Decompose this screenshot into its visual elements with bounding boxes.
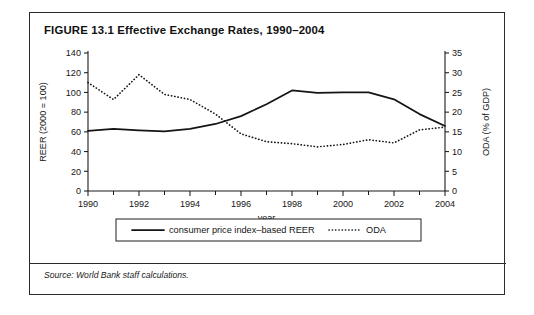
x-axis-tick-label: 2000 (333, 199, 353, 209)
series-line-oda (88, 75, 445, 147)
figure-title: FIGURE 13.1 Effective Exchange Rates, 19… (44, 24, 325, 36)
series-group (88, 75, 445, 147)
x-axis-tick-label: 1994 (180, 199, 200, 209)
legend-label-reer: consumer price index–based REER (169, 225, 315, 235)
left-axis-tick-label: 20 (71, 167, 81, 177)
legend-label-oda: ODA (366, 225, 387, 235)
left-axis-tick-label: 0 (76, 186, 81, 196)
left-axis-tick-label: 120 (66, 68, 81, 78)
right-axis-tick-label: 5 (452, 167, 457, 177)
x-axis-tick-label: 2002 (384, 199, 404, 209)
right-axis-tick-label: 30 (452, 68, 462, 78)
source-note: Source: World Bank staff calculations. (44, 270, 189, 280)
left-axis-tick-label: 60 (71, 127, 81, 137)
right-axis-group: 05101520253035ODA (% of GDP) (445, 48, 491, 196)
x-axis-tick-label: 1992 (129, 199, 149, 209)
x-axis-group: 19901992199419961998200020022004year (78, 191, 455, 223)
x-axis-tick-label: 1990 (78, 199, 98, 209)
left-axis-tick-label: 100 (66, 88, 81, 98)
right-axis-title: ODA (% of GDP) (481, 88, 491, 156)
left-axis-title: REER (2000 = 100) (38, 82, 48, 162)
right-axis-tick-label: 35 (452, 48, 462, 58)
source-divider (30, 263, 506, 264)
chart-plot-area: 020406080100120140REER (2000 = 100) 0510… (30, 43, 506, 248)
right-axis-tick-label: 15 (452, 127, 462, 137)
left-axis-tick-label: 140 (66, 48, 81, 58)
exchange-rate-line-chart: 020406080100120140REER (2000 = 100) 0510… (30, 43, 506, 248)
right-axis-tick-label: 20 (452, 107, 462, 117)
left-axis-group: 020406080100120140REER (2000 = 100) (38, 48, 88, 196)
right-axis-tick-label: 0 (452, 186, 457, 196)
figure-container: FIGURE 13.1 Effective Exchange Rates, 19… (29, 12, 505, 295)
x-axis-tick-label: 2004 (435, 199, 455, 209)
x-axis-tick-label: 1998 (282, 199, 302, 209)
left-axis-tick-label: 40 (71, 147, 81, 157)
series-line-reer (88, 90, 445, 131)
chart-legend: consumer price index–based REERODA (116, 219, 421, 241)
right-axis-tick-label: 25 (452, 88, 462, 98)
left-axis-tick-label: 80 (71, 107, 81, 117)
x-axis-tick-label: 1996 (231, 199, 251, 209)
right-axis-tick-label: 10 (452, 147, 462, 157)
